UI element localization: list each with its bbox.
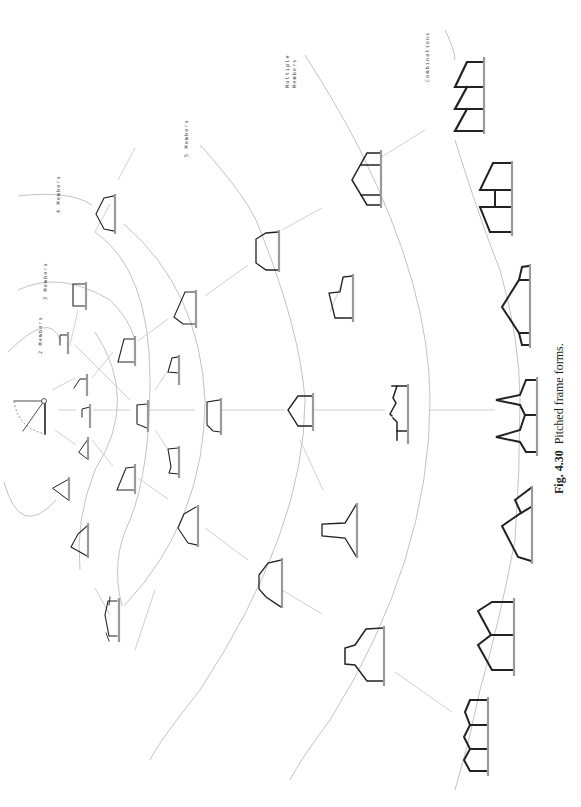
frame-4m-f [178, 505, 198, 547]
frame-5m-d [322, 503, 357, 558]
arc-5-members-main [124, 224, 205, 606]
frame-4m-c [168, 355, 179, 385]
frame-5m-b [329, 274, 353, 322]
arc-4-members-main [95, 232, 150, 606]
frame-mm-a [352, 150, 381, 208]
frame-2m-d [79, 437, 88, 460]
frame-cb-2bay-gable [478, 598, 514, 676]
frames-3-members [71, 282, 148, 558]
frame-2m-e [53, 477, 69, 501]
frame-5m-c [288, 393, 313, 431]
label-5-members: 5 Members [183, 119, 189, 157]
frame-4m-b [174, 290, 196, 328]
frame-cb-twin-spire [496, 377, 537, 456]
pitched-frame-diagram [0, 0, 581, 807]
frames-combinations [455, 57, 537, 776]
frame-2m-a [60, 332, 68, 354]
frame-3m-b [118, 336, 135, 366]
frame-cb-gable-lean-to [502, 264, 530, 348]
figure-caption: Fig. 4.30Pitched frame forms. [552, 343, 567, 494]
frame-2m-b [74, 374, 87, 396]
frame-2m-c [82, 404, 90, 428]
label-multiple-members: Multiple Members [284, 48, 298, 88]
frames-multiple-members [345, 150, 408, 686]
frame-cb-2story [480, 161, 512, 236]
frame-3m-c [137, 400, 148, 432]
arc-3-members [18, 282, 135, 340]
arc-5-members-outer [150, 145, 305, 760]
frame-5m-a [256, 230, 279, 272]
label-3-members: 3 Members [42, 262, 48, 300]
arc-2-members [8, 328, 60, 353]
label-4-members: 4 Members [55, 175, 61, 213]
frame-mm-c [345, 626, 384, 686]
frames-5-members [256, 230, 357, 608]
frames-2-members [53, 332, 90, 501]
frame-3m-d [117, 464, 135, 494]
frame-4m-g [105, 597, 119, 642]
frame-4m-d [207, 398, 221, 435]
origin-pivot [14, 399, 47, 435]
frame-5m-e [259, 558, 282, 608]
frame-mm-b [390, 384, 408, 444]
arc-2-members-b [4, 482, 56, 516]
figure-number: Fig. 4.30 [552, 450, 566, 494]
figure-title: Pitched frame forms. [552, 343, 566, 444]
frame-4m-e [168, 446, 179, 478]
frame-cb-gable-shed [502, 486, 532, 564]
label-2-members: 2 Members [37, 316, 43, 354]
label-combinations: Combinations [424, 31, 430, 82]
frame-4m-gable [96, 194, 115, 234]
frame-cb-3bay-shed [455, 57, 484, 134]
